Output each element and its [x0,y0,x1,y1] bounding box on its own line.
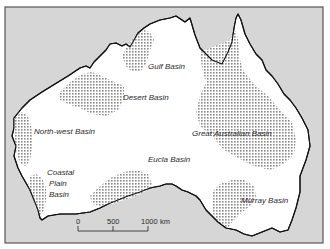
australia-basins-map: Gulf Basin Desert Basin North-west Basin… [0,0,330,249]
label-eucla-basin: Eucla Basin [148,155,191,164]
label-gulf-basin: Gulf Basin [148,62,185,71]
scale-unit: km [160,217,170,226]
scale-tick-1000: 1000 [141,217,158,226]
scale-tick-500: 500 [107,217,120,226]
label-north-west-basin: North-west Basin [34,127,95,136]
label-great-australian-basin: Great Australian Basin [192,129,272,138]
scale-tick-0: 0 [76,217,80,226]
label-coastal-plain-basin-line1: Coastal [47,168,74,177]
label-coastal-plain-basin-line2: Plain [49,179,67,188]
label-murray-basin: Murray Basin [241,196,289,205]
label-coastal-plain-basin-line3: Basin [49,190,70,199]
label-desert-basin: Desert Basin [123,93,169,102]
